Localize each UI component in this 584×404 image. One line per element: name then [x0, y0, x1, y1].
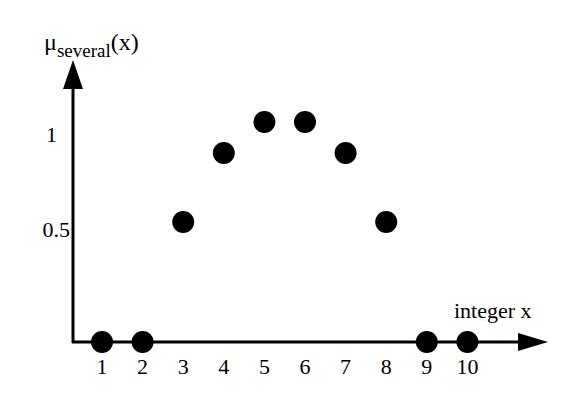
x-tick-7: 7: [331, 356, 361, 378]
data-point-x4: [213, 142, 235, 164]
x-tick-4: 4: [209, 356, 239, 378]
data-point-x6: [294, 111, 316, 133]
x-tick-3: 3: [168, 356, 198, 378]
y-axis-label: μseveral(x): [44, 30, 139, 54]
x-tick-1: 1: [87, 356, 117, 378]
x-axis-arrow-icon: [518, 333, 548, 351]
x-tick-5: 5: [249, 356, 279, 378]
y-axis-arrow-icon: [63, 60, 83, 89]
x-tick-2: 2: [128, 356, 158, 378]
x-tick-8: 8: [371, 356, 401, 378]
data-point-x9: [416, 331, 438, 353]
data-point-x3: [172, 211, 194, 233]
data-point-x7: [335, 142, 357, 164]
y-axis-label-mu: μ: [44, 29, 57, 55]
x-axis-label: integer x: [454, 300, 532, 322]
x-tick-6: 6: [290, 356, 320, 378]
x-tick-10: 10: [452, 356, 482, 378]
data-point-x2: [132, 331, 154, 353]
y-axis-label-subscript: several: [57, 40, 111, 61]
data-points: [91, 111, 478, 353]
data-point-x8: [375, 211, 397, 233]
y-tick-1: 1: [17, 124, 57, 146]
y-tick-0-5: 0.5: [30, 219, 70, 241]
y-axis-label-arg: (x): [111, 29, 139, 55]
x-tick-9: 9: [412, 356, 442, 378]
data-point-x10: [456, 331, 478, 353]
data-point-x1: [91, 331, 113, 353]
data-point-x5: [253, 111, 275, 133]
